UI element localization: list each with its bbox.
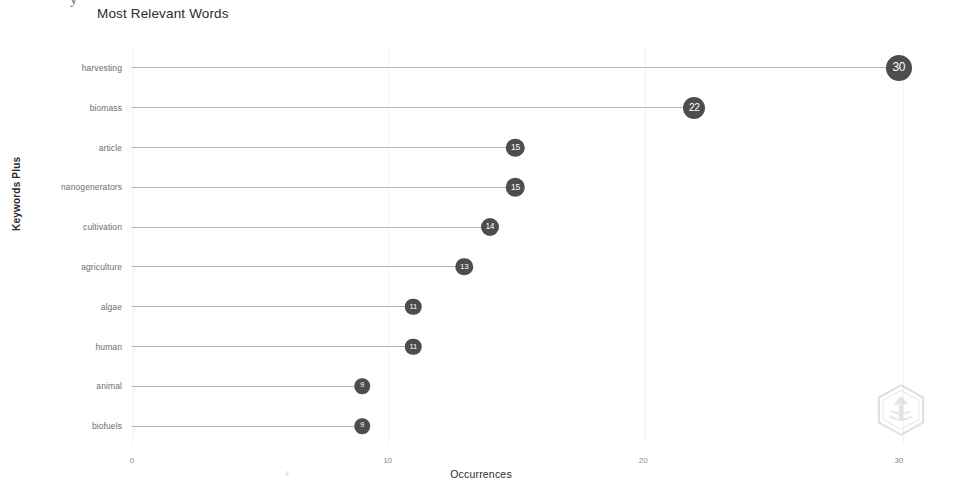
chart-title: Most Relevant Words [97, 6, 229, 21]
lollipop-point-value[interactable]: 22 [683, 97, 705, 119]
lollipop-stem [132, 187, 506, 188]
lollipop-point-value[interactable]: 9 [354, 379, 370, 395]
x-axis-tick-30: 30 [894, 456, 903, 465]
gridline-20 [645, 46, 646, 444]
gridline-0 [132, 46, 133, 444]
y-axis-title: Keywords Plus [11, 157, 22, 231]
chart-container: y Most Relevant Words 302215151413111199… [0, 0, 962, 502]
lollipop-stem [132, 67, 886, 68]
y-axis-label-cultivation: cultivation [83, 222, 122, 232]
hexagon-logo-watermark-icon [874, 383, 928, 437]
lollipop-point-value[interactable]: 15 [506, 138, 525, 157]
lollipop-point-value[interactable]: 15 [506, 178, 525, 197]
x-axis-tick-20: 20 [639, 456, 648, 465]
lollipop-point-value[interactable]: 11 [405, 338, 422, 355]
lollipop-stem [132, 306, 405, 307]
x-axis-tick-0: 0 [130, 456, 134, 465]
y-axis-label-harvesting: harvesting [82, 63, 122, 73]
x-axis-title: Occurrences [0, 468, 962, 480]
lollipop-point-value[interactable]: 9 [354, 418, 370, 434]
lollipop-stem [132, 147, 506, 148]
y-axis-label-biomass: biomass [90, 103, 122, 113]
y-axis-label-agriculture: agriculture [81, 262, 122, 272]
y-axis-labels: harvestingbiomassarticlenanogeneratorscu… [0, 46, 122, 444]
y-axis-label-nanogenerators: nanogenerators [61, 182, 122, 192]
lollipop-stem [132, 386, 354, 387]
lollipop-point-value[interactable]: 30 [886, 55, 912, 81]
lollipop-stem [132, 227, 481, 228]
y-axis-label-animal: animal [96, 381, 122, 391]
plot-area: 302215151413111199 [132, 46, 950, 444]
x-axis-tick-10: 10 [383, 456, 392, 465]
y-axis-label-biofuels: biofuels [92, 421, 122, 431]
lollipop-stem [132, 426, 354, 427]
lollipop-point-value[interactable]: 11 [405, 298, 422, 315]
lollipop-stem [132, 266, 456, 267]
lollipop-point-value[interactable]: 14 [481, 218, 499, 236]
clipped-glyph-above-title: y [70, 0, 78, 8]
y-axis-label-algae: algae [101, 302, 122, 312]
lollipop-point-value[interactable]: 13 [456, 258, 474, 276]
lollipop-stem [132, 107, 683, 108]
y-axis-label-human: human [96, 342, 123, 352]
lollipop-stem [132, 346, 405, 347]
gridline-10 [388, 46, 389, 444]
y-axis-label-article: article [99, 143, 122, 153]
